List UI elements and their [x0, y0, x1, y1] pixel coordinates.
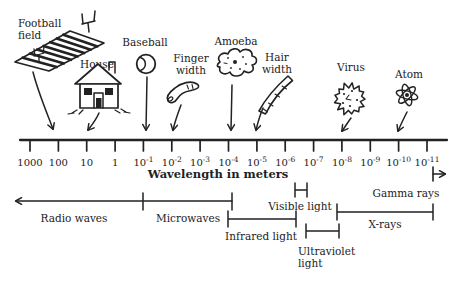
house-arrow [88, 113, 99, 130]
band-label: light [298, 257, 323, 269]
axis-title: Wavelength in meters [147, 167, 289, 181]
band-label: X-rays [368, 218, 401, 230]
finger-width-arrow [173, 105, 181, 130]
axis-tick-label: 1000 [17, 157, 42, 168]
virus-illustration: Virus [335, 61, 366, 131]
axis-tick-label: 10-10 [386, 155, 411, 168]
band-x-rays: X-rays [337, 204, 433, 230]
band-radio-microwaves: Radio wavesMicrowaves [16, 193, 232, 224]
band-label: Visible light [267, 200, 332, 212]
axis-tick-label: 10-11 [415, 155, 440, 168]
finger-width-label: width [176, 64, 206, 76]
atom-label: Atom [394, 68, 423, 80]
virus-icon [335, 83, 366, 115]
atom-icon [395, 83, 418, 106]
atom-arrow [398, 112, 407, 131]
band-label: Microwaves [156, 212, 220, 224]
amoeba-arrow [231, 85, 232, 130]
axis-tick-label: 10 [80, 157, 93, 168]
football-field-label: field [18, 29, 42, 41]
virus-arrow [342, 118, 351, 131]
band-ultraviolet: Ultravioletlight [298, 224, 356, 269]
em-spectrum-svg: 100010010110-110-210-310-410-510-610-710… [0, 0, 461, 281]
band-gamma-rays: Gamma rays [373, 167, 445, 199]
amoeba-icon [217, 49, 256, 76]
axis-tick-label: 10-8 [332, 155, 352, 168]
band-label: Ultraviolet [298, 245, 356, 257]
band-label: Gamma rays [373, 187, 440, 199]
em-spectrum-diagram: 100010010110-110-210-310-410-510-610-710… [0, 0, 461, 281]
axis-tick-label: 1 [112, 157, 118, 168]
baseball-icon [137, 55, 156, 74]
axis-tick-label: 10-7 [304, 155, 324, 168]
finger-width-label: Finger [173, 52, 209, 64]
finger-width-icon [167, 82, 198, 102]
finger-width-illustration: Fingerwidth [167, 52, 209, 130]
atom-illustration: Atom [394, 68, 423, 131]
hair-width-label: Hair [265, 51, 290, 63]
baseball-illustration: Baseball [122, 36, 168, 130]
band-bracket [306, 224, 339, 238]
band-visible: Visible light [267, 183, 332, 212]
band-label: Infrared light [225, 230, 298, 242]
band-bracket [228, 211, 296, 227]
house-icon [68, 62, 130, 114]
football-field-arrow [33, 72, 53, 129]
football-field-label: Football [18, 17, 62, 29]
band-infrared: Infrared light [225, 211, 298, 242]
amoeba-illustration: Amoeba [213, 35, 257, 130]
band-bracket [295, 183, 307, 197]
wavelength-axis: 100010010110-110-210-310-410-510-610-710… [17, 140, 447, 181]
axis-tick-label: 10-9 [360, 155, 380, 168]
baseball-label: Baseball [122, 36, 168, 48]
band-label: Radio waves [41, 212, 108, 224]
hair-width-label: width [262, 63, 292, 75]
baseball-arrow [146, 77, 147, 130]
hair-width-illustration: Hairwidth [256, 51, 293, 130]
amoeba-label: Amoeba [213, 35, 257, 47]
house-illustration: House [68, 58, 130, 130]
axis-tick-label: 100 [49, 157, 68, 168]
hair-width-icon [259, 76, 293, 114]
virus-label: Virus [336, 61, 365, 73]
